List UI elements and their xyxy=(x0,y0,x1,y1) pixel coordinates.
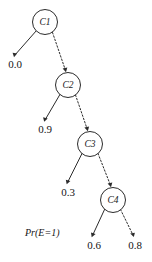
leaf-value-0-9: 0.9 xyxy=(38,123,52,135)
tree-canvas: C1 C2 C3 C4 0.0 0.9 0.3 0.6 0.8 Pr(E=1) xyxy=(0,0,152,262)
node-c3[interactable]: C3 xyxy=(78,132,103,157)
edge-c1-to-leaf-0-0 xyxy=(13,31,37,58)
edge-c2-to-c3 xyxy=(76,95,90,131)
edge-c1-to-c2 xyxy=(53,33,68,73)
node-c4[interactable]: C4 xyxy=(101,188,126,213)
node-c1[interactable]: C1 xyxy=(33,10,58,35)
leaf-value-0-8: 0.8 xyxy=(128,239,142,251)
node-c3-label: C3 xyxy=(84,139,95,149)
node-c4-label: C4 xyxy=(107,195,118,205)
edge-c4-to-leaf-0-8 xyxy=(121,210,135,238)
node-c2-label: C2 xyxy=(62,80,73,90)
edge-c3-to-leaf-0-3 xyxy=(66,153,83,185)
leaf-value-0-0: 0.0 xyxy=(8,58,22,70)
node-c1-label: C1 xyxy=(39,17,50,27)
leaf-value-0-3: 0.3 xyxy=(61,186,75,198)
edge-c4-to-leaf-0-6 xyxy=(91,209,105,238)
figure-caption: Pr(E=1) xyxy=(24,227,60,239)
probability-tree-figure: C1 C2 C3 C4 0.0 0.9 0.3 0.6 0.8 Pr(E=1) xyxy=(0,0,152,262)
edge-c3-to-c4 xyxy=(98,154,112,188)
node-c2[interactable]: C2 xyxy=(56,73,81,98)
edge-c2-to-leaf-0-9 xyxy=(43,94,60,122)
leaf-value-0-6: 0.6 xyxy=(87,239,101,251)
